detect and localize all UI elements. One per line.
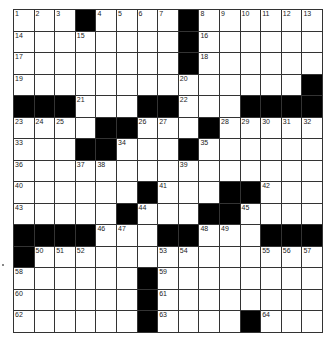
grid-cell[interactable] <box>76 75 96 96</box>
grid-cell[interactable] <box>179 118 199 139</box>
grid-cell[interactable] <box>96 53 116 74</box>
grid-cell[interactable] <box>302 182 322 203</box>
grid-cell[interactable] <box>241 139 261 160</box>
grid-cell[interactable]: 15 <box>76 32 96 53</box>
grid-cell[interactable] <box>138 247 158 268</box>
grid-cell[interactable]: 20 <box>179 75 199 96</box>
grid-cell[interactable]: 34 <box>117 139 137 160</box>
grid-cell[interactable]: 42 <box>261 182 281 203</box>
grid-cell[interactable]: 45 <box>241 204 261 225</box>
grid-cell[interactable]: 39 <box>179 161 199 182</box>
grid-cell[interactable] <box>55 75 75 96</box>
grid-cell[interactable] <box>35 75 55 96</box>
grid-cell[interactable] <box>261 268 281 289</box>
grid-cell[interactable]: 14 <box>14 32 34 53</box>
grid-cell[interactable] <box>55 268 75 289</box>
grid-cell[interactable]: 50 <box>35 247 55 268</box>
grid-cell[interactable]: 57 <box>302 247 322 268</box>
grid-cell[interactable] <box>241 290 261 311</box>
grid-cell[interactable]: 53 <box>158 247 178 268</box>
grid-cell[interactable] <box>199 247 219 268</box>
grid-cell[interactable] <box>241 247 261 268</box>
grid-cell[interactable] <box>55 53 75 74</box>
grid-cell[interactable] <box>199 311 219 332</box>
grid-cell[interactable] <box>261 32 281 53</box>
grid-cell[interactable] <box>76 290 96 311</box>
grid-cell[interactable]: 48 <box>199 225 219 246</box>
grid-cell[interactable] <box>241 225 261 246</box>
grid-cell[interactable] <box>261 75 281 96</box>
grid-cell[interactable] <box>117 161 137 182</box>
grid-cell[interactable] <box>241 32 261 53</box>
grid-cell[interactable] <box>96 182 116 203</box>
grid-cell[interactable] <box>35 204 55 225</box>
grid-cell[interactable]: 38 <box>96 161 116 182</box>
grid-cell[interactable]: 25 <box>55 118 75 139</box>
grid-cell[interactable] <box>76 268 96 289</box>
grid-cell[interactable] <box>220 268 240 289</box>
grid-cell[interactable]: 44 <box>138 204 158 225</box>
grid-cell[interactable] <box>241 268 261 289</box>
grid-cell[interactable] <box>138 53 158 74</box>
grid-cell[interactable] <box>138 139 158 160</box>
grid-cell[interactable]: 11 <box>261 10 281 31</box>
grid-cell[interactable] <box>261 139 281 160</box>
grid-cell[interactable] <box>55 161 75 182</box>
grid-cell[interactable]: 58 <box>14 268 34 289</box>
grid-cell[interactable] <box>117 32 137 53</box>
grid-cell[interactable] <box>220 32 240 53</box>
grid-cell[interactable] <box>282 182 302 203</box>
grid-cell[interactable] <box>117 290 137 311</box>
grid-cell[interactable]: 16 <box>199 32 219 53</box>
grid-cell[interactable] <box>199 290 219 311</box>
grid-cell[interactable] <box>35 32 55 53</box>
grid-cell[interactable] <box>117 53 137 74</box>
grid-cell[interactable] <box>199 161 219 182</box>
grid-cell[interactable]: 6 <box>138 10 158 31</box>
grid-cell[interactable]: 5 <box>117 10 137 31</box>
grid-cell[interactable] <box>35 311 55 332</box>
grid-cell[interactable] <box>138 32 158 53</box>
grid-cell[interactable] <box>117 268 137 289</box>
grid-cell[interactable] <box>158 32 178 53</box>
grid-cell[interactable] <box>96 75 116 96</box>
grid-cell[interactable] <box>55 204 75 225</box>
grid-cell[interactable]: 52 <box>76 247 96 268</box>
grid-cell[interactable] <box>282 268 302 289</box>
grid-cell[interactable]: 36 <box>14 161 34 182</box>
grid-cell[interactable] <box>302 53 322 74</box>
grid-cell[interactable]: 55 <box>261 247 281 268</box>
grid-cell[interactable]: 54 <box>179 247 199 268</box>
grid-cell[interactable] <box>55 311 75 332</box>
grid-cell[interactable] <box>35 268 55 289</box>
grid-cell[interactable]: 2 <box>35 10 55 31</box>
grid-cell[interactable]: 43 <box>14 204 34 225</box>
grid-cell[interactable] <box>117 247 137 268</box>
grid-cell[interactable] <box>302 268 322 289</box>
grid-cell[interactable] <box>179 311 199 332</box>
grid-cell[interactable]: 24 <box>35 118 55 139</box>
grid-cell[interactable] <box>55 182 75 203</box>
grid-cell[interactable] <box>96 268 116 289</box>
grid-cell[interactable] <box>138 75 158 96</box>
grid-cell[interactable]: 4 <box>96 10 116 31</box>
grid-cell[interactable] <box>302 204 322 225</box>
grid-cell[interactable] <box>96 290 116 311</box>
grid-cell[interactable] <box>282 32 302 53</box>
grid-cell[interactable]: 30 <box>261 118 281 139</box>
grid-cell[interactable]: 41 <box>158 182 178 203</box>
grid-cell[interactable] <box>158 53 178 74</box>
grid-cell[interactable] <box>179 182 199 203</box>
grid-cell[interactable] <box>55 290 75 311</box>
grid-cell[interactable] <box>282 204 302 225</box>
grid-cell[interactable]: 35 <box>199 139 219 160</box>
grid-cell[interactable] <box>261 161 281 182</box>
grid-cell[interactable]: 9 <box>220 10 240 31</box>
grid-cell[interactable]: 31 <box>282 118 302 139</box>
grid-cell[interactable] <box>282 311 302 332</box>
grid-cell[interactable]: 26 <box>138 118 158 139</box>
grid-cell[interactable] <box>220 311 240 332</box>
grid-cell[interactable] <box>282 53 302 74</box>
grid-cell[interactable]: 51 <box>55 247 75 268</box>
grid-cell[interactable] <box>35 139 55 160</box>
